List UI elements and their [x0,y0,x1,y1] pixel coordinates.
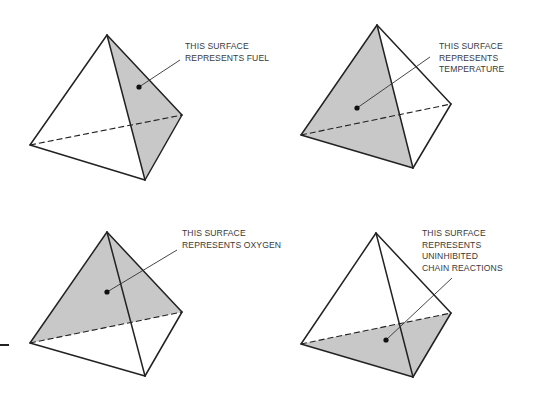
label-line: REPRESENTS [422,240,503,252]
surface-dot [104,289,109,294]
label-chain-reactions: THIS SURFACEREPRESENTSUNINHIBITEDCHAIN R… [422,228,503,274]
label-line: REPRESENTS FUEL [185,53,269,65]
label-line: THIS SURFACE [185,41,269,53]
label-line: TEMPERATURE [439,64,504,76]
edge [30,145,145,180]
label-line: REPRESENTS OXYGEN [182,240,281,252]
edge [301,233,376,344]
shaded-surface [301,313,451,377]
tetrahedron-temperature [301,25,451,168]
surface-dot [354,105,359,110]
shaded-surface [107,35,182,180]
label-fuel: THIS SURFACEREPRESENTS FUEL [185,41,269,64]
label-line: REPRESENTS [439,53,504,65]
label-temperature: THIS SURFACEREPRESENTSTEMPERATURE [439,41,504,76]
label-line: THIS SURFACE [439,41,504,53]
edge [30,35,107,145]
surface-dot [136,84,141,89]
label-line: UNINHIBITED [422,251,503,263]
leader-line [139,60,180,87]
label-oxygen: THIS SURFACEREPRESENTS OXYGEN [182,228,281,251]
surface-dot [383,337,388,342]
edge [30,343,145,376]
label-line: CHAIN REACTIONS [422,263,503,275]
label-line: THIS SURFACE [422,228,503,240]
label-line: THIS SURFACE [182,228,281,240]
edge [413,104,451,168]
edge [145,312,182,376]
tetrahedron-fuel [30,35,182,180]
tetrahedron-oxygen [30,232,182,376]
